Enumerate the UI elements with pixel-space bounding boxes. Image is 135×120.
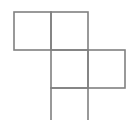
grid-cell-a — [14, 12, 51, 50]
grid-cell-b — [51, 12, 88, 50]
square-grid-diagram — [0, 0, 135, 120]
grid-cell-e — [51, 88, 88, 120]
grid-cell-d — [88, 50, 125, 88]
diagram-canvas — [0, 0, 135, 120]
grid-cell-c — [51, 50, 88, 88]
